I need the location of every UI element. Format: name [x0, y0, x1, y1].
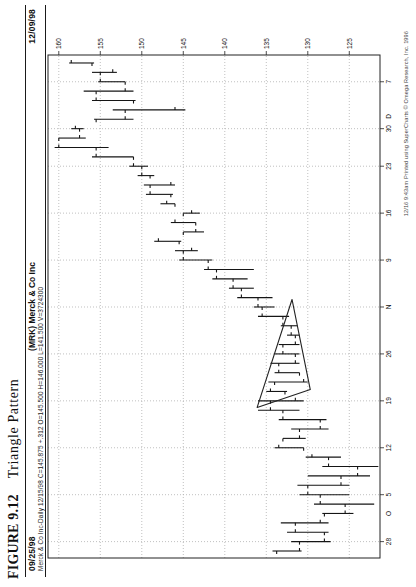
ohlc-bar — [144, 182, 175, 188]
ohlc-bar — [237, 295, 272, 301]
date-tick-label: 19 — [385, 397, 392, 405]
date-tick-label: 16 — [385, 209, 392, 217]
ohlc-bar — [229, 285, 254, 291]
ohlc-bar — [299, 492, 349, 498]
ohlc-bar — [92, 154, 134, 160]
ohlc-bar — [138, 173, 155, 179]
ohlc-bar — [69, 60, 94, 66]
ohlc-bar — [129, 163, 148, 169]
grid — [48, 55, 380, 558]
date-tick-label: 30 — [385, 125, 392, 133]
ohlc-bar — [297, 482, 349, 488]
price-tick-label: 145 — [180, 38, 187, 49]
ohlc-bar — [59, 135, 86, 141]
ohlc-bar — [314, 501, 374, 507]
date-tick-label: 5 — [385, 493, 392, 497]
ohlc-bar — [212, 276, 247, 282]
price-tick-label: 140 — [221, 38, 228, 49]
ohlc-bar — [254, 304, 275, 310]
ohlc-bar — [291, 539, 330, 545]
ohlc-bar — [84, 88, 134, 94]
ohlc-bar — [291, 426, 328, 432]
ohlc-bar — [270, 360, 299, 366]
price-tick-label: 150 — [138, 38, 145, 49]
date-tick-label: 26 — [385, 350, 392, 358]
plot-frame — [48, 55, 380, 558]
print-credit: 12/16 9:43am Printed using SuperCharts ©… — [403, 31, 409, 216]
ohlc-bar — [279, 417, 327, 423]
ohlc-bar — [275, 351, 300, 357]
ohlc-bar — [275, 445, 304, 451]
ohlc-bar — [322, 510, 353, 516]
date-tick-label: 28 — [385, 538, 392, 546]
price-tick-label: 135 — [263, 38, 270, 49]
price-tick-label: 155 — [97, 38, 104, 49]
ohlc-bar — [146, 191, 173, 197]
rotated-figure-page: FIGURE 9.12Triangle Pattern 09/25/98 (MR… — [0, 0, 416, 587]
ohlc-bar — [175, 248, 198, 254]
price-tick-label: 130 — [304, 38, 311, 49]
ohlc-bar — [94, 116, 133, 122]
price-tick-label: 160 — [55, 38, 62, 49]
ohlc-bar — [275, 370, 300, 376]
date-tick-label: 12 — [385, 444, 392, 452]
ohlc-bar — [154, 238, 181, 244]
price-axis: 160155150145140135130125 — [55, 38, 353, 55]
ohlc-bar — [273, 548, 302, 554]
ohlc-bar — [287, 332, 299, 338]
date-tick-label: O — [385, 511, 392, 516]
ohlc-bar — [71, 126, 83, 132]
ohlc-bar — [308, 473, 370, 479]
ohlc-bar — [204, 266, 254, 272]
ohlc-bar — [258, 313, 289, 319]
date-tick-label: 9 — [385, 258, 392, 262]
date-tick-label: 7 — [385, 80, 392, 84]
ohlc-bar — [268, 379, 307, 385]
ohlc-bar — [179, 257, 212, 263]
ohlc-bar — [183, 229, 204, 235]
ohlc-bar — [258, 398, 304, 404]
ohlc-bar — [183, 210, 200, 216]
ohlc-bar — [92, 69, 117, 75]
ohlc-bar — [283, 435, 306, 441]
date-tick-label: 23 — [385, 162, 392, 170]
time-axis: 28O5121926N9162330D7 — [380, 80, 392, 546]
ohlc-bar — [92, 98, 136, 104]
ohlc-bar — [281, 520, 329, 526]
ohlc-bar — [306, 454, 341, 460]
ohlc-bar — [266, 388, 287, 394]
ohlc-bar — [98, 79, 125, 85]
ohlc-bar — [113, 107, 186, 113]
ohlc-bar — [322, 464, 378, 470]
chart-canvas: 16015515014514013513012528O5121926N91623… — [0, 0, 416, 587]
date-tick-label: D — [385, 114, 392, 119]
ohlc-bar — [258, 407, 300, 413]
price-tick-label: 125 — [346, 38, 353, 49]
date-tick-label: N — [385, 304, 392, 309]
ohlc-bar — [279, 342, 300, 348]
ohlc-bar — [160, 201, 175, 207]
